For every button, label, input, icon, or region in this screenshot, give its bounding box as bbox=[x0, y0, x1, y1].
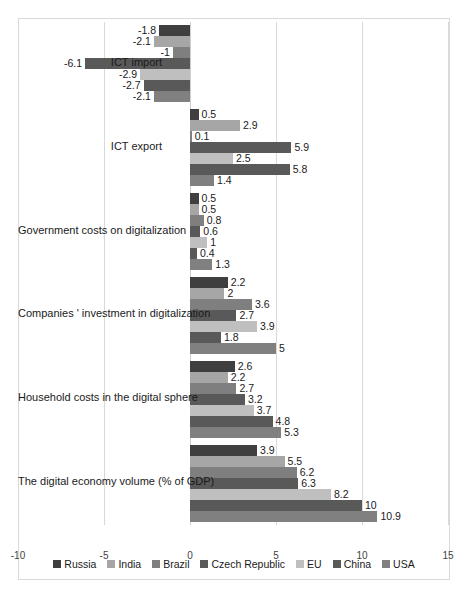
legend-item[interactable]: USA bbox=[382, 558, 415, 570]
bar bbox=[190, 511, 377, 522]
bar-row: 10.9 bbox=[18, 511, 448, 522]
bar-row: -2.1 bbox=[18, 36, 448, 47]
bar-chart: -10-5051015-1.8-2.1-1-6.1-2.9-2.7-2.1ICT… bbox=[0, 0, 468, 600]
bar bbox=[190, 248, 197, 259]
bar-row: 1.8 bbox=[18, 332, 448, 343]
legend-label: USA bbox=[393, 558, 415, 570]
bar-row: -2.1 bbox=[18, 91, 448, 102]
category-axis-label: ICT import bbox=[18, 56, 162, 68]
bar-row: 2 bbox=[18, 288, 448, 299]
bar bbox=[154, 36, 190, 47]
plot-area: -10-5051015-1.8-2.1-1-6.1-2.9-2.7-2.1ICT… bbox=[18, 22, 448, 525]
bar-value-label: -2.1 bbox=[133, 88, 151, 104]
bar bbox=[190, 456, 285, 467]
bar bbox=[190, 193, 199, 204]
bar bbox=[190, 153, 233, 164]
category-axis-label: ICT export bbox=[18, 140, 162, 152]
bar bbox=[190, 445, 257, 456]
bar bbox=[140, 69, 190, 80]
legend-label: China bbox=[344, 558, 371, 570]
bar-row: 2.9 bbox=[18, 120, 448, 131]
legend-item[interactable]: India bbox=[107, 558, 141, 570]
bar bbox=[190, 343, 276, 354]
bar bbox=[159, 25, 190, 36]
bar bbox=[190, 405, 254, 416]
bar-row: 0.5 bbox=[18, 204, 448, 215]
bar bbox=[190, 332, 221, 343]
bar bbox=[190, 259, 212, 270]
bar-row: 1.4 bbox=[18, 175, 448, 186]
bar bbox=[154, 91, 190, 102]
legend-label: India bbox=[118, 558, 141, 570]
bar bbox=[190, 109, 199, 120]
bar-row: 1.3 bbox=[18, 259, 448, 270]
bar-row: -2.9 bbox=[18, 69, 448, 80]
bar bbox=[190, 500, 362, 511]
bar bbox=[190, 361, 235, 372]
legend-swatch-icon bbox=[333, 560, 341, 568]
bar-value-label: 5 bbox=[279, 340, 285, 356]
bar bbox=[190, 394, 245, 405]
legend-swatch-icon bbox=[107, 560, 115, 568]
bar-row: 1 bbox=[18, 237, 448, 248]
bar-row: 0.5 bbox=[18, 193, 448, 204]
bar-row: 0.5 bbox=[18, 109, 448, 120]
bar bbox=[190, 427, 281, 438]
bar-value-label: 10.9 bbox=[380, 508, 400, 524]
legend-swatch-icon bbox=[152, 560, 160, 568]
legend-swatch-icon bbox=[382, 560, 390, 568]
bar-row: 5.8 bbox=[18, 164, 448, 175]
bar bbox=[190, 372, 228, 383]
category-axis-label: Government costs on digitalization bbox=[18, 224, 162, 236]
bar bbox=[190, 215, 204, 226]
bar bbox=[190, 277, 228, 288]
legend-label: Brazil bbox=[163, 558, 189, 570]
bar-row: 5.5 bbox=[18, 456, 448, 467]
category-axis-label: Companies ' investment in digitalization bbox=[18, 307, 162, 319]
bar-row: 4.8 bbox=[18, 416, 448, 427]
bar-value-label: 1.4 bbox=[217, 172, 232, 188]
legend-item[interactable]: Russia bbox=[53, 558, 96, 570]
legend-item[interactable]: Brazil bbox=[152, 558, 189, 570]
bar-row: 5.3 bbox=[18, 427, 448, 438]
legend-item[interactable]: China bbox=[333, 558, 371, 570]
chart-legend: RussiaIndiaBrazilCzech RepublicEUChinaUS… bbox=[18, 558, 450, 570]
bar-row: 2.2 bbox=[18, 372, 448, 383]
bar-row: -2.7 bbox=[18, 80, 448, 91]
bar bbox=[190, 489, 331, 500]
bar bbox=[190, 416, 273, 427]
bar bbox=[190, 175, 214, 186]
bar-row: 3.9 bbox=[18, 445, 448, 456]
bar bbox=[190, 131, 192, 142]
legend-swatch-icon bbox=[53, 560, 61, 568]
bar-row: 8.2 bbox=[18, 489, 448, 500]
category-axis-label: Household costs in the digital sphere bbox=[18, 391, 162, 403]
legend-label: Czech Republic bbox=[211, 558, 285, 570]
legend-label: Russia bbox=[64, 558, 96, 570]
bar bbox=[190, 164, 290, 175]
gridline-15 bbox=[448, 22, 449, 525]
bar bbox=[190, 288, 224, 299]
legend-swatch-icon bbox=[296, 560, 304, 568]
bar-row: 3.7 bbox=[18, 405, 448, 416]
category-axis-label: The digital economy volume (% of GDP) bbox=[18, 475, 162, 487]
bar-value-label: 1.3 bbox=[215, 256, 230, 272]
legend-label: EU bbox=[307, 558, 322, 570]
bar bbox=[190, 226, 200, 237]
bar-row: 0.4 bbox=[18, 248, 448, 259]
legend-swatch-icon bbox=[200, 560, 208, 568]
legend-item[interactable]: Czech Republic bbox=[200, 558, 285, 570]
bar bbox=[190, 204, 199, 215]
bar-value-label: 5.3 bbox=[284, 424, 299, 440]
bar bbox=[173, 47, 190, 58]
bar-row: -1.8 bbox=[18, 25, 448, 36]
bar-row: 5 bbox=[18, 343, 448, 354]
legend-item[interactable]: EU bbox=[296, 558, 322, 570]
bar-row: 2.5 bbox=[18, 153, 448, 164]
